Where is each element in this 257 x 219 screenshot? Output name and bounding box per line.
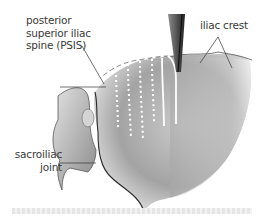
label-si-line-1: sacroiliac [10, 148, 62, 161]
label-psis-line-2: superior iliac [26, 27, 91, 40]
sacrum [53, 88, 96, 190]
ilium [94, 54, 251, 212]
caption-bar-placeholder [12, 208, 252, 214]
label-psis: posterior superior iliac spine (PSIS) [26, 14, 91, 52]
pelvis-illustration: posterior superior iliac spine (PSIS) il… [0, 0, 257, 219]
label-iliac-crest: iliac crest [200, 19, 248, 32]
label-sacroiliac-joint: sacroiliac joint [10, 148, 62, 173]
label-si-line-2: joint [10, 161, 62, 174]
label-psis-line-3: spine (PSIS) [26, 39, 91, 52]
label-psis-line-1: posterior [26, 14, 91, 27]
